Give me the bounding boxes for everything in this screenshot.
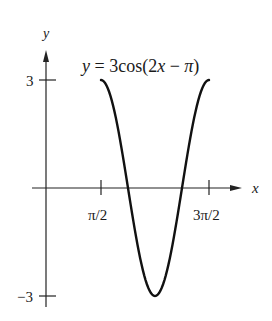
xtick-label-pi-half: π/2 [88, 207, 107, 223]
equation-label: y = 3cos(2x − π) [80, 56, 199, 77]
plot-area: y x 3 −3 π/2 3π/2 y = 3cos(2x − π) [0, 0, 272, 321]
ytick-label-3: 3 [26, 73, 34, 89]
xtick-label-3pi-half: 3π/2 [193, 207, 220, 223]
y-axis-arrow-icon [43, 50, 49, 62]
y-axis-label: y [41, 26, 50, 41]
ytick-label-neg3: −3 [17, 289, 33, 305]
function-graph: y x 3 −3 π/2 3π/2 y = 3cos(2x − π) [0, 0, 272, 321]
x-axis-arrow-icon [230, 185, 242, 191]
x-axis-label: x [251, 180, 259, 196]
